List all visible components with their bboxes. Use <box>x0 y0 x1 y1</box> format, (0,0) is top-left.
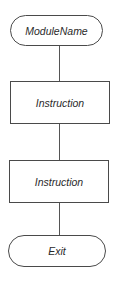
connector-start-to-step1 <box>59 46 60 81</box>
instruction-box-2: Instruction <box>9 160 109 203</box>
instruction-box-1: Instruction <box>10 81 110 124</box>
instruction-2-label: Instruction <box>35 176 83 188</box>
exit-terminator: Exit <box>8 235 106 267</box>
start-terminator: ModuleName <box>10 15 103 46</box>
exit-label: Exit <box>48 245 66 257</box>
instruction-1-label: Instruction <box>36 97 84 109</box>
start-label: ModuleName <box>25 25 87 37</box>
flowchart-diagram: ModuleName Instruction Instruction Exit <box>0 0 114 284</box>
connector-step2-to-exit <box>59 203 60 235</box>
connector-step1-to-step2 <box>59 124 60 160</box>
